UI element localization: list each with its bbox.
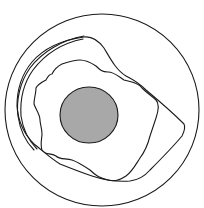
core-circle: [60, 87, 118, 143]
contour-diagram: [0, 0, 204, 208]
